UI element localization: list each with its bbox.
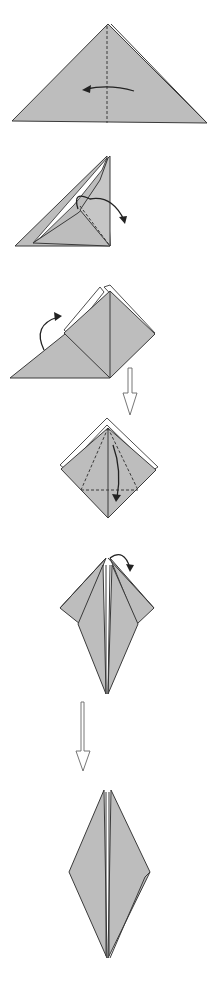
- step-6-bird-base: [69, 790, 150, 958]
- step-2-squash-fold: [15, 156, 127, 246]
- origami-diagram: [0, 0, 209, 991]
- next-step-arrow-icon: [76, 702, 90, 771]
- step-5-bird-base-partial: [60, 555, 154, 694]
- step-3-square-on-triangle: [10, 285, 155, 378]
- step-4-square-base: [60, 418, 158, 518]
- step-1-triangle: [12, 24, 207, 123]
- next-step-arrow-icon: [123, 368, 137, 415]
